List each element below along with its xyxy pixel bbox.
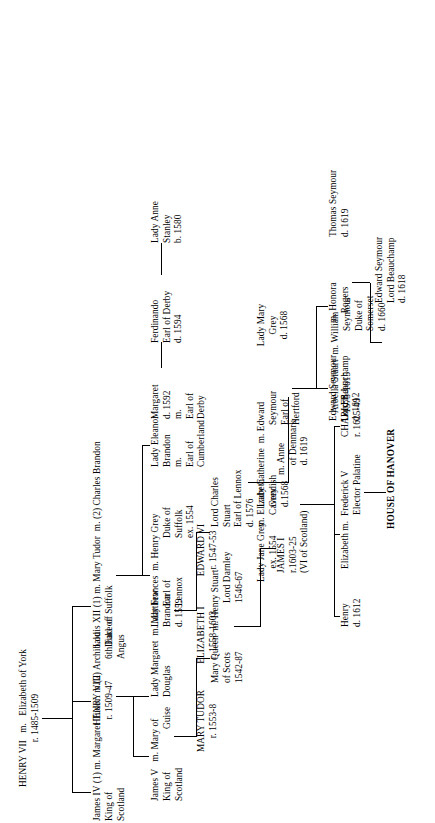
node-henry-vii: HENRY VII m. Elizabeth of York r. 1485-1… (18, 643, 41, 793)
node-margaret-clifford: Margaret d. 1592 m. Earl of Derby (150, 349, 208, 419)
node-mary-qos-sub: of Scots 1542-87 (222, 619, 245, 683)
node-lady-frances-brandon: Lady Frances m. Henry Grey (150, 467, 162, 627)
connector (196, 533, 197, 611)
connector (300, 504, 334, 505)
node-henry-grey-sub: Duke of Suffolk ex. 1554 (162, 468, 197, 538)
connector (334, 426, 340, 427)
connector (174, 610, 196, 611)
node-lady-margaret-sub: Douglas (162, 637, 174, 697)
connector (370, 342, 382, 343)
connector (174, 736, 196, 737)
node-lady-catherine-grey: Lady Catherine m. Edward (256, 367, 268, 507)
connector (72, 701, 91, 702)
connector (133, 756, 149, 757)
node-thomas-seymour: Thomas Seymour d. 1619 (328, 141, 351, 237)
node-henry-viii: HENRY VIII r. 1509-47 (92, 665, 115, 735)
node-lady-mary-grey: Lady Mary Grey d. 1568 (256, 293, 291, 357)
connector (334, 534, 340, 535)
connector (316, 306, 328, 307)
connector (42, 718, 72, 719)
connector (142, 575, 150, 576)
connector (316, 388, 328, 389)
connector (370, 283, 371, 343)
node-ferdinando-derby: Ferdinando Earl of Derby d. 1594 (150, 259, 185, 343)
node-lady-frances-sub: Brandon d. 1559 (162, 557, 185, 627)
connector (72, 792, 91, 793)
node-james-i: JAMES I r.1603-25 (VI of Scotland) (276, 479, 311, 573)
connector (260, 548, 276, 549)
node-james-v: James V m. Mary of (150, 691, 162, 801)
node-edward-seymour-beauchamp-1618: Edward Seymour Lord Beauchamp d. 1618 (374, 203, 409, 303)
node-anne-of-denmark: m. Anne of Denmark d. 1619 (276, 381, 311, 475)
connector (334, 616, 340, 617)
node-honora-rogers: m. Honora Rogers (328, 243, 351, 323)
connector (72, 607, 73, 793)
connector (334, 427, 335, 617)
connector (196, 659, 197, 737)
connector (196, 532, 210, 533)
node-james-iv-sub: King of Scotland (104, 761, 127, 821)
connector (133, 697, 134, 757)
connector (133, 696, 149, 697)
node-mary-queen-of-scots: Mary Queen m. Henry Stuart (210, 533, 222, 683)
node-elizabeth-frederick-v: Elizabeth m. Frederick V (340, 433, 352, 569)
node-frederick-sub: Elector Palatine (352, 425, 364, 515)
node-james-v-sub: King of Scotland (162, 741, 185, 801)
node-darnley-sub: Lord Darnley 1546-67 (222, 529, 245, 603)
node-mary-tudor-queen: MARY TUDOR r. 1553-8 (196, 679, 219, 763)
connector (142, 445, 150, 446)
node-henry-prince-of-wales: Henry d. 1612 (340, 567, 363, 627)
connector (142, 446, 143, 576)
connector (116, 575, 142, 576)
connector (316, 307, 317, 389)
connector (260, 549, 261, 627)
connector (72, 606, 91, 607)
connector (116, 696, 133, 697)
connector (161, 243, 162, 275)
node-louis-xii-mary-tudor: Louis XII (1) m. Mary Tudor m. (2) Charl… (92, 402, 115, 647)
connector (364, 492, 386, 493)
node-house-of-hanover: HOUSE OF HANOVER (386, 379, 398, 529)
family-tree-diagram: HENRY VII m. Elizabeth of York r. 1485-1… (0, 0, 435, 823)
connector (196, 658, 210, 659)
connector (352, 282, 370, 283)
connector (234, 626, 260, 627)
node-charles-i: CHARLES I r. 1625-49 (340, 357, 363, 437)
node-lady-anne-stanley: Lady Anne Stanley b. 1580 (150, 175, 185, 243)
connector (161, 342, 162, 368)
